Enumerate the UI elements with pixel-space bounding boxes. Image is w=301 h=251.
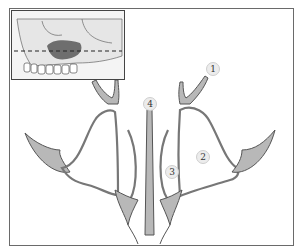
label-2: 2 (196, 150, 210, 164)
skull-inset (11, 10, 125, 80)
label-1: 1 (206, 62, 220, 76)
label-3: 3 (165, 165, 179, 179)
skull-lateral-icon (12, 11, 124, 79)
label-4: 4 (143, 97, 157, 111)
